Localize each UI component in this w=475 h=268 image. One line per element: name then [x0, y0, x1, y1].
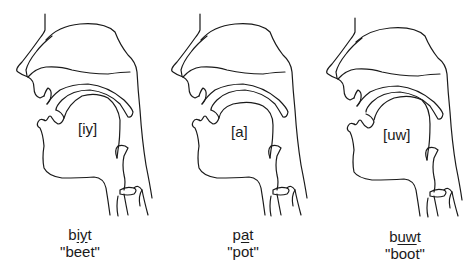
vocal-tract-outline-uw [310, 0, 470, 220]
transcription-biyt: biyt [30, 226, 130, 243]
vowel-label-iy: [iy] [78, 121, 97, 136]
transcription-buwt: buwt [355, 228, 455, 245]
vocal-tract-outline-iy [0, 0, 160, 220]
transcription-suffix: t [417, 228, 421, 245]
transcription-prefix: p [233, 226, 241, 243]
transcription-suffix: t [249, 226, 253, 243]
gloss-boot: "boot" [355, 245, 455, 262]
gloss-beet: "beet" [30, 243, 130, 260]
vowel-label-uw: [uw] [383, 127, 411, 142]
caption-boot: buwt "boot" [355, 228, 455, 262]
transcription-suffix: t [88, 226, 92, 243]
caption-beet: biyt "beet" [30, 226, 130, 260]
gloss-pot: "pot" [193, 243, 293, 260]
transcription-pat: pat [193, 226, 293, 243]
transcription-vowel-underlined: iy [77, 226, 88, 243]
vowel-label-a: [a] [231, 124, 248, 139]
transcription-prefix: b [68, 226, 76, 243]
caption-pot: pat "pot" [193, 226, 293, 260]
transcription-vowel-underlined: uw [397, 228, 416, 245]
vocal-tract-outline-a [155, 0, 315, 220]
transcription-vowel-underlined: a [241, 226, 249, 243]
